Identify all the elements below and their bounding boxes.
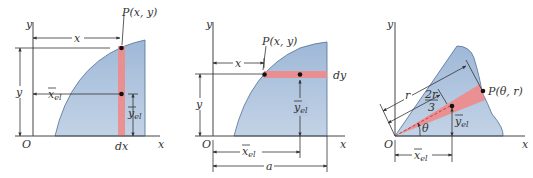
theta-label: θ bbox=[422, 122, 429, 135]
point-p bbox=[481, 89, 486, 94]
origin-label: O bbox=[22, 138, 31, 151]
width-a-label: a bbox=[266, 160, 273, 173]
origin-label: O bbox=[202, 138, 211, 151]
origin-label: O bbox=[384, 138, 393, 151]
three-label: 3 bbox=[428, 101, 435, 114]
dim-x-label: x bbox=[74, 32, 81, 45]
dim-y-label: y bbox=[195, 98, 203, 111]
radius-label: r bbox=[405, 89, 411, 102]
axis-y-label: y bbox=[25, 18, 33, 31]
panel-vertical-strip: y x O P(x, y) x y xel yel dx bbox=[14, 6, 165, 153]
centroid-diagrams: y x O P(x, y) x y xel yel dx y x bbox=[0, 0, 533, 178]
xel-label: xel bbox=[48, 88, 62, 102]
dim-x-label: x bbox=[235, 57, 242, 70]
area-region bbox=[234, 42, 327, 136]
dy-label: dy bbox=[333, 69, 347, 82]
point-label: P(θ, r) bbox=[487, 85, 523, 98]
point-label: P(x, y) bbox=[261, 35, 297, 48]
area-region bbox=[55, 40, 145, 136]
centroid-point bbox=[298, 72, 303, 77]
panel-polar-sector: y x O P(θ, r) r 2r 3 θ yel xel bbox=[380, 18, 529, 163]
horizontal-strip-element bbox=[264, 71, 327, 78]
dx-label: dx bbox=[115, 140, 129, 153]
dim-y-label: y bbox=[15, 86, 23, 99]
axis-y-label: y bbox=[386, 18, 394, 31]
axis-x-label: x bbox=[522, 138, 529, 151]
panel-horizontal-strip: y x O P(x, y) x y dy yel xel a bbox=[194, 18, 347, 173]
point-p bbox=[119, 46, 124, 51]
axis-y-label: y bbox=[205, 18, 213, 31]
two-r-label: 2r bbox=[424, 88, 438, 101]
centroid-point bbox=[450, 104, 455, 109]
point-p bbox=[262, 72, 267, 77]
point-label: P(x, y) bbox=[121, 6, 157, 19]
axis-x-label: x bbox=[158, 138, 165, 151]
vertical-strip-element bbox=[118, 46, 125, 136]
axis-x-label: x bbox=[340, 138, 347, 151]
centroid-point bbox=[119, 92, 124, 97]
